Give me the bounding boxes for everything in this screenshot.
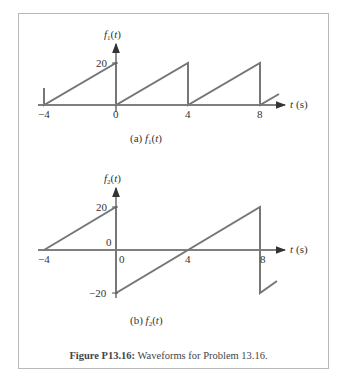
ytick-20: 20	[96, 57, 108, 69]
svg-text:20: 20	[96, 201, 108, 213]
figure-caption: Figure P13.16: Waveforms for Problem 13.…	[0, 350, 337, 361]
caption-text: Waveforms for Problem 13.16.	[135, 350, 268, 361]
panel-b-label: (b) f2(t)	[130, 314, 163, 328]
panel-a-label: (a) f1(t)	[130, 132, 162, 146]
chart-f2: 20 0 −20 −4 0 4 8 t (s) f2(t) (b) f2(t)	[38, 172, 308, 328]
svg-text:−20: −20	[89, 287, 107, 299]
svg-text:t: t	[290, 98, 294, 110]
chart-f1: 20 −4 0 4 8 t (s) f1(t) (a) f1(t)	[38, 28, 308, 146]
svg-text:f1(t): f1(t)	[104, 28, 121, 42]
svg-text:0: 0	[113, 108, 119, 120]
waveform-figure: 20 −4 0 4 8 t (s) f1(t) (a) f1(t) 20 0 −…	[0, 0, 337, 381]
svg-text:−4: −4	[38, 253, 50, 265]
svg-text:0: 0	[106, 236, 112, 248]
f1-waveform	[44, 63, 279, 105]
svg-text:(s): (s)	[296, 243, 308, 256]
svg-text:4: 4	[185, 253, 191, 265]
svg-text:8: 8	[260, 253, 266, 265]
svg-text:(s): (s)	[296, 98, 308, 111]
svg-text:8: 8	[257, 108, 263, 120]
svg-text:−4: −4	[38, 108, 50, 120]
svg-text:4: 4	[185, 108, 191, 120]
caption-label: Figure P13.16:	[69, 350, 135, 361]
svg-text:t: t	[290, 243, 294, 255]
svg-text:f2(t): f2(t)	[104, 172, 121, 186]
svg-text:0: 0	[119, 253, 125, 265]
